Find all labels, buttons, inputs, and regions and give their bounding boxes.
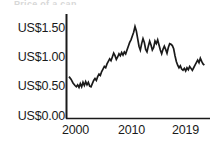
y-tick-label-000: US$0.00 [5, 110, 65, 123]
y-tick-label-100: US$1.00 [5, 51, 65, 64]
x-tick-label-2000: 2000 [62, 124, 89, 137]
price-series-line [69, 27, 204, 88]
price-line-chart-figure: Price of a can US$1.50 US$1.00 US$0.50 U… [0, 0, 217, 144]
y-tick-label-150: US$1.50 [5, 22, 65, 35]
y-tick-label-050: US$0.50 [5, 80, 65, 93]
x-tick-label-2010: 2010 [118, 124, 145, 137]
x-tick-label-2019: 2019 [172, 124, 199, 137]
chart-axes [66, 14, 210, 119]
y-axis-tick-labels: US$1.50 US$1.00 US$0.50 US$0.00 [5, 0, 65, 144]
